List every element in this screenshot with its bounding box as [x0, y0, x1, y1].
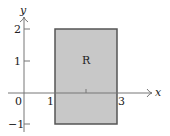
y-axis-label: y	[19, 4, 27, 17]
x-tick-label-0: 0	[15, 95, 22, 108]
y-tick-label-neg1: −1	[8, 118, 24, 131]
x-tick-label-3: 3	[118, 95, 125, 108]
x-tick-label-1: 1	[47, 95, 54, 108]
x-axis-label: x	[155, 86, 162, 99]
y-tick-label-1: 1	[14, 55, 21, 68]
region-r	[55, 29, 117, 124]
region-diagram: y x 2 1 −1 0 1 3 R	[0, 0, 170, 136]
region-label: R	[82, 54, 91, 67]
y-tick-label-2: 2	[14, 23, 21, 36]
